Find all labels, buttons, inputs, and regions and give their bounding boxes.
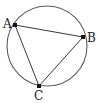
point-b-label: B [87, 31, 96, 45]
point-c-marker [37, 84, 41, 88]
point-a-label: A [2, 17, 12, 31]
segment-bc [39, 37, 83, 86]
circle-triangle-diagram: A B C [0, 0, 97, 103]
point-b-marker [81, 35, 85, 39]
point-a-marker [13, 23, 17, 27]
segment-ca [15, 25, 39, 86]
segment-ab [15, 25, 83, 37]
point-c-label: C [34, 89, 43, 103]
